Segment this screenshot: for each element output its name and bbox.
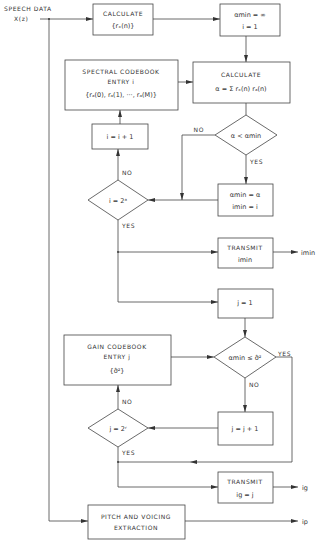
calculate-alpha-title: CALCULATE <box>221 71 261 78</box>
increment-j-box: j = j + 1 <box>218 412 273 445</box>
arrow-head-icon <box>180 193 184 200</box>
arrow-head-icon <box>148 426 155 430</box>
arrow-head-icon <box>116 385 120 392</box>
init-alpha-box: αmin = ∞ i = 1 <box>220 4 280 36</box>
init-j-box: j = 1 <box>218 289 273 318</box>
init-j-text: j = 1 <box>236 299 253 307</box>
decision-gain-no-label: NO <box>249 381 259 388</box>
spectral-codebook-set: {rₐ(0), rₐ(1), ···, rₐ(M)} <box>85 91 157 99</box>
arrow-head-icon <box>86 17 93 21</box>
arrow-head-icon <box>291 250 298 254</box>
decision-i-text: i = 2ᵃ <box>109 197 128 205</box>
arrow-head-icon <box>213 17 220 21</box>
decision-gain-text: αmin ≤ σ̂² <box>229 354 262 362</box>
arrow-head-icon <box>211 485 218 489</box>
pitch-voicing-title: PITCH AND VOICING <box>101 513 171 520</box>
transmit-ig-value: ig = j <box>236 491 254 499</box>
decision-i-yes-label: YES <box>121 222 135 229</box>
arrow-head-icon <box>243 330 247 337</box>
calculate-alpha-box: CALCULATE α = Σ rₓ(n) rₐ(n) <box>193 62 290 103</box>
decision-j-text: j = 2ʳ <box>108 425 127 433</box>
arrow-head-icon <box>244 55 248 62</box>
increment-i-text: i = i + 1 <box>107 133 134 141</box>
update-alpha-min-text: αmin = α <box>230 191 260 199</box>
decision-gain: αmin ≤ σ̂² YES NO <box>214 337 291 388</box>
arrow-head-icon <box>211 300 218 304</box>
gain-codebook-box: GAIN CODEBOOK ENTRY j {σ̂²} <box>64 335 171 385</box>
arrow-head-icon <box>243 405 247 412</box>
arrow-head-icon <box>118 110 122 117</box>
decision-alpha-text: α < αmin <box>231 132 261 140</box>
update-min-box: αmin = α imin = i <box>218 184 273 216</box>
connector-no <box>182 135 215 200</box>
calculate-alpha-formula: α = Σ rₓ(n) rₐ(n) <box>215 85 266 93</box>
decision-alpha-yes-label: YES <box>249 158 263 165</box>
calculate-rx-box: CALCULATE {rₓ(n)} <box>93 4 153 35</box>
spectral-codebook-title: SPECTRAL CODEBOOK <box>82 68 160 75</box>
calculate-rx-title: CALCULATE <box>103 10 143 17</box>
update-i-min-text: imin = i <box>232 203 258 211</box>
transmit-imin-title: TRANSMIT <box>226 244 262 251</box>
decision-i-no-label: NO <box>122 169 132 176</box>
calculate-rx-formula: {rₓ(n)} <box>111 22 134 30</box>
arrow-head-icon <box>211 250 218 254</box>
arrow-head-icon <box>244 177 248 184</box>
transmit-imin-box: TRANSMIT imin <box>218 238 273 268</box>
increment-i-box: i = i + 1 <box>92 124 148 149</box>
arrow-head-icon <box>148 198 155 202</box>
arrow-head-icon <box>81 519 88 523</box>
arrow-head-icon <box>190 460 197 464</box>
output-ip-label: ip <box>302 518 308 526</box>
arrow-head-icon <box>207 355 214 359</box>
pitch-voicing-box: PITCH AND VOICING EXTRACTION <box>88 505 185 539</box>
flowchart: SPEECH DATA X(z) CALCULATE {rₓ(n)} αmin … <box>0 0 321 551</box>
junction-dot <box>117 461 119 463</box>
init-i-text: i = 1 <box>242 23 258 31</box>
decision-alpha-no-label: NO <box>194 126 204 133</box>
speech-data-input: SPEECH DATA X(z) <box>4 5 52 22</box>
pitch-voicing-subtitle: EXTRACTION <box>114 524 158 531</box>
arrow-head-icon <box>291 519 298 523</box>
arrow-head-icon <box>116 149 120 156</box>
init-alpha-text: αmin = ∞ <box>234 11 266 19</box>
input-signal-label: X(z) <box>14 15 28 22</box>
gain-codebook-title: GAIN CODEBOOK <box>87 343 147 350</box>
decision-j-yes-label: YES <box>121 449 135 456</box>
increment-j-text: j = j + 1 <box>231 425 259 433</box>
spectral-codebook-entry: ENTRY i <box>107 78 134 85</box>
output-imin-label: imin <box>301 249 315 257</box>
transmit-ig-box: TRANSMIT ig = j <box>218 472 273 503</box>
arrow-head-icon <box>186 80 193 84</box>
input-label: SPEECH DATA <box>4 5 52 12</box>
spectral-codebook-box: SPECTRAL CODEBOOK ENTRY i {rₐ(0), rₐ(1),… <box>65 60 178 110</box>
transmit-imin-value: imin <box>238 256 252 264</box>
gain-codebook-set: {σ̂²} <box>110 367 125 375</box>
decision-alpha-less-than-min: α < αmin NO YES <box>194 115 277 165</box>
arrow-head-icon <box>291 485 298 489</box>
gain-codebook-entry: ENTRY j <box>103 353 130 361</box>
decision-j-no-label: NO <box>122 398 132 405</box>
decision-gain-yes-label: YES <box>277 350 291 357</box>
output-ig-label: ig <box>302 484 308 492</box>
transmit-ig-title: TRANSMIT <box>226 478 262 485</box>
